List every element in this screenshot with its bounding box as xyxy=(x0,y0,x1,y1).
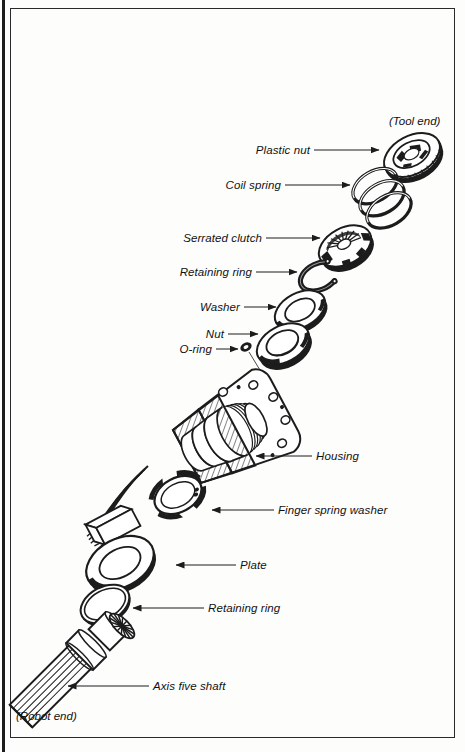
robot-end-marker: (Robot end) xyxy=(16,710,77,722)
callout-label-plate: Plate xyxy=(240,559,267,571)
callout-label-o-ring: O-ring xyxy=(179,343,212,355)
callout-label-housing: Housing xyxy=(316,450,359,462)
callout-label-plastic-nut: Plastic nut xyxy=(256,144,310,156)
callout-label-finger-spring-washer: Finger spring washer xyxy=(278,504,387,516)
callout-label-nut: Nut xyxy=(206,328,224,340)
tool-end-marker: (Tool end) xyxy=(389,115,440,127)
part-o-ring xyxy=(239,340,254,353)
callout-label-retaining-ring-bottom: Retaining ring xyxy=(208,602,280,614)
figure-page: Plastic nutCoil springSerrated clutchRet… xyxy=(0,0,465,752)
part-plate xyxy=(77,466,165,606)
callout-label-washer: Washer xyxy=(200,301,240,313)
callout-label-serrated-clutch: Serrated clutch xyxy=(183,232,262,244)
callout-label-coil-spring: Coil spring xyxy=(226,179,281,191)
exploded-diagram-artwork xyxy=(0,0,465,752)
callout-label-axis-five-shaft: Axis five shaft xyxy=(153,680,225,692)
callout-label-retaining-ring-top: Retaining ring xyxy=(180,266,252,278)
